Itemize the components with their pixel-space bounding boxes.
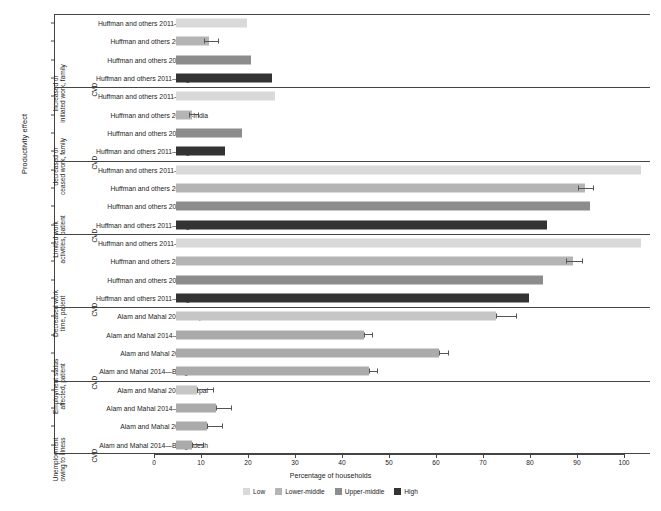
chart-row: Alam and Mahal 2014—India bbox=[54, 417, 650, 435]
y-tick bbox=[51, 41, 54, 42]
x-tick bbox=[530, 454, 531, 458]
error-bar bbox=[364, 332, 373, 337]
chart-bar bbox=[176, 440, 192, 449]
x-tick-label: 80 bbox=[526, 459, 533, 466]
legend-swatch bbox=[243, 488, 250, 495]
bar-track bbox=[176, 87, 646, 105]
chart-row: Huffman and others 2011—Tanzania bbox=[54, 161, 650, 179]
chart-bar bbox=[176, 19, 247, 28]
bar-track bbox=[176, 307, 646, 325]
x-tick-label: 20 bbox=[244, 459, 251, 466]
error-bar bbox=[189, 112, 199, 117]
bar-track bbox=[176, 69, 646, 87]
group-rows: Alam and Mahal 2014—NepalAlam and Mahal … bbox=[54, 307, 650, 380]
chart-row: Huffman and others 2011—China bbox=[54, 51, 650, 69]
bar-track bbox=[176, 381, 646, 399]
y-tick bbox=[51, 353, 54, 354]
error-bar bbox=[197, 387, 213, 392]
error-bar bbox=[566, 259, 582, 264]
y-tick bbox=[51, 188, 54, 189]
y-tick bbox=[51, 206, 54, 207]
x-axis: 0102030405060708090100 bbox=[154, 454, 624, 455]
productivity-effect-chart: Productivity effect Increased or initiat… bbox=[0, 0, 661, 511]
chart-row: Alam and Mahal 2014—Sri Lanka bbox=[54, 399, 650, 417]
x-tick bbox=[295, 454, 296, 458]
group-rows: Alam and Mahal 2014—NepalAlam and Mahal … bbox=[54, 381, 650, 454]
chart-row: Huffman and others 2011—China bbox=[54, 197, 650, 215]
chart-group: Unemployment owing to illnessCVDAlam and… bbox=[54, 381, 650, 454]
bar-track bbox=[176, 234, 646, 252]
legend-label: Low bbox=[253, 488, 265, 495]
x-tick-label: 90 bbox=[573, 459, 580, 466]
chart-row: Huffman and others 2011—Tanzania bbox=[54, 14, 650, 32]
chart-row: Huffman and others 2011—Argentina bbox=[54, 142, 650, 160]
y-tick bbox=[51, 371, 54, 372]
group-rows: Huffman and others 2011—TanzaniaHuffman … bbox=[54, 14, 650, 87]
y-tick bbox=[51, 133, 54, 134]
chart-row: Huffman and others 2011—India bbox=[54, 179, 650, 197]
plot-area: Productivity effect Increased or initiat… bbox=[22, 14, 650, 454]
y-tick bbox=[51, 389, 54, 390]
bar-track bbox=[176, 14, 646, 32]
legend-label: High bbox=[404, 488, 418, 495]
chart-bar bbox=[176, 74, 272, 83]
chart-bar bbox=[176, 239, 641, 248]
x-tick bbox=[389, 454, 390, 458]
legend-item[interactable]: High bbox=[394, 488, 418, 495]
legend-label: Lower-middle bbox=[285, 488, 325, 495]
error-bar bbox=[439, 351, 448, 356]
chart-bar bbox=[176, 312, 496, 321]
chart-legend: LowLower-middleUpper-middleHigh bbox=[0, 488, 661, 495]
error-bar bbox=[496, 314, 517, 319]
error-bar bbox=[192, 442, 204, 447]
x-tick-label: 40 bbox=[338, 459, 345, 466]
x-axis-title: Percentage of households bbox=[0, 472, 661, 479]
chart-row: Alam and Mahal 2014—Bangladesh bbox=[54, 436, 650, 454]
bar-track bbox=[176, 271, 646, 289]
chart-group: Employment status affected, patientCVDAl… bbox=[54, 307, 650, 380]
y-tick bbox=[51, 426, 54, 427]
bar-track bbox=[176, 344, 646, 362]
chart-bar bbox=[176, 55, 251, 64]
bar-track bbox=[176, 32, 646, 50]
y-tick bbox=[51, 316, 54, 317]
chart-row: Huffman and others 2011—India bbox=[54, 106, 650, 124]
chart-group: decreased or ceased work, familyCVDHuffm… bbox=[54, 87, 650, 160]
x-tick-label: 60 bbox=[432, 459, 439, 466]
x-tick bbox=[154, 454, 155, 458]
x-tick bbox=[624, 454, 625, 458]
bar-track bbox=[176, 51, 646, 69]
x-tick-label: 30 bbox=[291, 459, 298, 466]
legend-label: Upper-middle bbox=[345, 488, 385, 495]
bar-track bbox=[176, 161, 646, 179]
chart-row: Huffman and others 2011—Tanzania bbox=[54, 87, 650, 105]
chart-bar bbox=[176, 220, 547, 229]
chart-bar bbox=[176, 330, 364, 339]
x-tick-label: 10 bbox=[197, 459, 204, 466]
chart-bar bbox=[176, 367, 369, 376]
y-tick bbox=[51, 334, 54, 335]
legend-item[interactable]: Low bbox=[243, 488, 265, 495]
y-tick bbox=[51, 114, 54, 115]
x-tick bbox=[436, 454, 437, 458]
bar-track bbox=[176, 216, 646, 234]
error-bar bbox=[369, 369, 378, 374]
error-bar bbox=[207, 424, 223, 429]
chart-bar bbox=[176, 294, 529, 303]
chart-row: Alam and Mahal 2014—Nepal bbox=[54, 307, 650, 325]
y-tick bbox=[51, 96, 54, 97]
y-tick bbox=[51, 151, 54, 152]
bar-track bbox=[176, 197, 646, 215]
bar-track bbox=[176, 179, 646, 197]
chart-bar bbox=[176, 385, 197, 394]
legend-swatch bbox=[275, 488, 282, 495]
chart-bar bbox=[176, 184, 585, 193]
chart-bar bbox=[176, 422, 207, 431]
chart-row: Huffman and others 2011—Argentina bbox=[54, 216, 650, 234]
legend-item[interactable]: Lower-middle bbox=[275, 488, 325, 495]
chart-row: Huffman and others 2011—India bbox=[54, 252, 650, 270]
x-tick bbox=[248, 454, 249, 458]
legend-item[interactable]: Upper-middle bbox=[335, 488, 385, 495]
x-tick-label: 70 bbox=[479, 459, 486, 466]
y-tick bbox=[51, 298, 54, 299]
